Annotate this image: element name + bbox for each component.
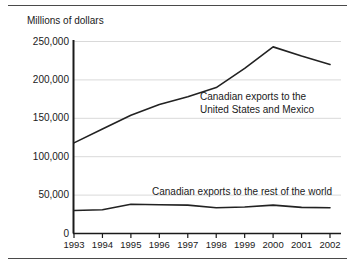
gridlines-group — [74, 42, 341, 196]
series-annotation-line: Canadian exports to the rest of the worl… — [152, 186, 332, 199]
y-tick-label: 50,000 — [0, 190, 69, 200]
y-tick-label: 100,000 — [0, 152, 69, 162]
series-annotation-us-mexico: Canadian exports to theUnited States and… — [200, 91, 314, 116]
y-tick-label: 0 — [0, 229, 69, 239]
series-line-1 — [74, 204, 330, 210]
series-annotation-line: Canadian exports to the — [200, 91, 314, 104]
chart-figure: Millions of dollars 050,000100,000150,00… — [0, 0, 355, 270]
x-tick-label: 1993 — [59, 240, 89, 250]
x-tick-label: 1995 — [116, 240, 146, 250]
x-tick-label: 2000 — [258, 240, 288, 250]
x-tick-label: 1997 — [173, 240, 203, 250]
x-tick-label: 1998 — [201, 240, 231, 250]
x-tick-label: 1994 — [87, 240, 117, 250]
x-tick-label: 2001 — [287, 240, 317, 250]
y-tick-label: 200,000 — [0, 75, 69, 85]
x-tick-label: 1996 — [144, 240, 174, 250]
x-tick-label: 2002 — [315, 240, 345, 250]
series-annotation-line: United States and Mexico — [200, 104, 314, 117]
x-tick-marks-group — [74, 234, 330, 239]
y-tick-label: 150,000 — [0, 113, 69, 123]
series-annotation-rest-of-world: Canadian exports to the rest of the worl… — [152, 186, 332, 199]
y-tick-label: 250,000 — [0, 37, 69, 47]
x-tick-label: 1999 — [230, 240, 260, 250]
